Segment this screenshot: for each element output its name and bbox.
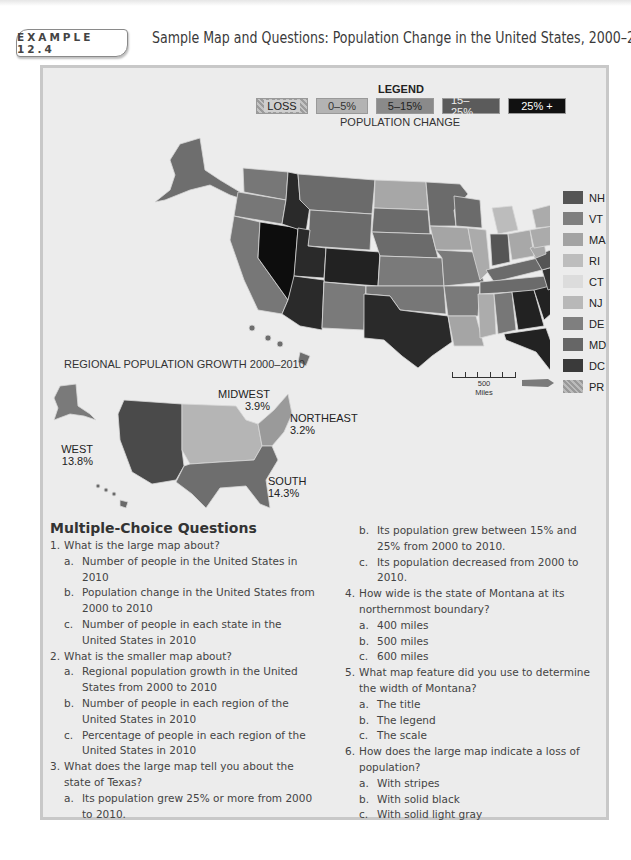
answer-option[interactable]: b.500 miles	[345, 634, 603, 650]
legend-swatch-25-plus: 25% +	[508, 98, 566, 114]
state-legend-item: CT	[563, 271, 606, 292]
state-legend-item: DC	[563, 355, 606, 376]
legend-swatch-15-25: 15–25%	[442, 98, 500, 114]
map-scale: 500 Miles	[452, 370, 516, 397]
question-5: 5.What map feature did you use to determ…	[345, 665, 603, 697]
answer-option[interactable]: c.The scale	[345, 728, 603, 744]
state-color-swatch	[563, 212, 583, 225]
region-west	[118, 400, 184, 484]
alaska-shape	[54, 384, 96, 420]
legend-swatch-0-5: 0–5%	[316, 98, 368, 114]
page-title: Sample Map and Questions: Population Cha…	[152, 29, 547, 51]
answer-option[interactable]: a.Its population grew 25% or more from 2…	[50, 791, 318, 823]
state-legend-item: PR	[563, 376, 606, 397]
questions-right-column: b.Its population grew between 15% and 25…	[345, 523, 603, 823]
answer-option[interactable]: c.Number of people in each state in the …	[50, 617, 318, 649]
legend-subtitle: POPULATION CHANGE	[340, 116, 460, 128]
legend-title: LEGEND	[378, 83, 424, 95]
state-color-swatch	[563, 317, 583, 330]
answer-option[interactable]: c.600 miles	[345, 649, 603, 665]
answer-option[interactable]: a.400 miles	[345, 618, 603, 634]
hawaii-shape	[96, 484, 128, 508]
scale-unit: Miles	[452, 388, 516, 397]
regional-map-title: REGIONAL POPULATION GROWTH 2000–2010	[64, 358, 305, 370]
answer-option[interactable]: a.Regional population growth in the Unit…	[50, 664, 318, 696]
example-label: EXAMPLE 12.4	[16, 29, 128, 57]
legend-swatches: LOSS 0–5% 5–15% 15–25% 25% +	[256, 98, 566, 114]
region-label-south: SOUTH14.3%	[268, 475, 307, 499]
state-legend-item: MA	[563, 229, 606, 250]
state-color-swatch	[563, 254, 583, 267]
legend-swatch-5-15: 5–15%	[376, 98, 434, 114]
scale-value: 500	[452, 379, 516, 388]
question-2: 2.What is the smaller map about?	[50, 649, 318, 665]
state-legend-item: RI	[563, 250, 606, 271]
answer-option[interactable]: c.Its population decreased from 2000 to …	[345, 555, 603, 587]
question-4: 4.How wide is the state of Montana at it…	[345, 586, 603, 618]
answer-option[interactable]: c.With solid light gray	[345, 807, 603, 823]
region-midwest	[182, 404, 262, 464]
state-color-swatch	[563, 233, 583, 246]
state-legend-item: NJ	[563, 292, 606, 313]
region-label-west: WEST13.8%	[61, 443, 93, 467]
answer-option[interactable]: a.The title	[345, 697, 603, 713]
state-legend-item: MD	[563, 334, 606, 355]
region-label-northeast: NORTHEAST3.2%	[290, 412, 358, 436]
region-label-midwest: MIDWEST3.9%	[210, 388, 270, 412]
state-color-swatch	[563, 338, 583, 351]
state-color-swatch	[563, 380, 583, 393]
answer-option[interactable]: a.Number of people in the United States …	[50, 554, 318, 586]
scale-bar	[452, 370, 516, 378]
legend-swatch-loss: LOSS	[256, 98, 308, 114]
answer-option[interactable]: b.Its population grew between 15% and 25…	[345, 523, 603, 555]
alaska-shape	[155, 138, 245, 202]
answer-option[interactable]: b.With solid black	[345, 792, 603, 808]
us-population-change-map	[150, 130, 550, 370]
state-legend-item: NH	[563, 187, 606, 208]
puerto-rico-shape	[520, 376, 556, 390]
questions-heading: Multiple-Choice Questions	[50, 520, 257, 536]
state-color-swatch	[563, 296, 583, 309]
question-1: 1.What is the large map about?	[50, 538, 318, 554]
state-legend-item: VT	[563, 208, 606, 229]
state-legend: NH VT MA RI CT NJ DE MD DC PR	[563, 187, 606, 397]
answer-option[interactable]: b.Population change in the United States…	[50, 585, 318, 617]
answer-option[interactable]: a.With stripes	[345, 776, 603, 792]
answer-option[interactable]: b.Number of people in each region of the…	[50, 696, 318, 728]
answer-option[interactable]: c.Percentage of people in each region of…	[50, 728, 318, 760]
state-color-swatch	[563, 359, 583, 372]
question-6: 6.How does the large map indicate a loss…	[345, 744, 603, 776]
questions-left-column: 1.What is the large map about? a.Number …	[50, 538, 318, 822]
question-3: 3.What does the large map tell you about…	[50, 759, 318, 791]
top-rule	[0, 0, 631, 6]
state-color-swatch	[563, 275, 583, 288]
state-color-swatch	[563, 191, 583, 204]
state-legend-item: DE	[563, 313, 606, 334]
answer-option[interactable]: b.The legend	[345, 713, 603, 729]
